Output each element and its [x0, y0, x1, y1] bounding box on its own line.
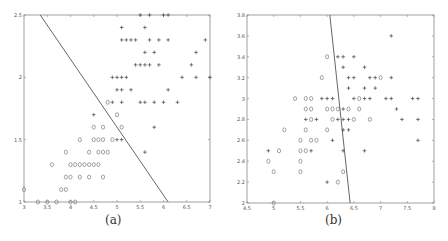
circle-marker [299, 159, 302, 163]
circle-marker [120, 125, 123, 129]
y-tick-label: 2.4 [237, 158, 245, 164]
circle-marker [78, 175, 81, 179]
circle-marker [320, 76, 323, 80]
decision-boundary-line [40, 15, 168, 202]
plus-marker [267, 149, 271, 153]
circle-marker [310, 107, 313, 111]
circle-marker [106, 100, 109, 104]
plus-marker [143, 100, 147, 104]
x-tick-label: 4 [69, 204, 72, 210]
x-tick-label: 6.5 [183, 204, 191, 210]
plus-marker [129, 38, 133, 42]
plus-marker [341, 55, 345, 59]
circle-marker [310, 117, 313, 121]
plus-marker [400, 118, 404, 122]
circle-marker [101, 175, 104, 179]
circle-marker [304, 149, 307, 153]
circle-marker [78, 138, 81, 142]
circle-marker [111, 138, 114, 142]
x-tick-label: 7 [379, 205, 382, 211]
plus-marker [194, 51, 198, 55]
plus-marker [180, 76, 184, 80]
scatter-plot-a: 33.544.555.566.5711.522.5 [0, 0, 224, 241]
x-tick-label: 5.5 [296, 205, 304, 211]
circle-marker [299, 149, 302, 153]
plus-marker [368, 97, 372, 101]
plus-marker [166, 88, 170, 92]
x-tick-label: 6.5 [350, 205, 358, 211]
plus-marker [148, 38, 152, 42]
plus-marker [331, 139, 335, 143]
plus-marker [115, 88, 119, 92]
plus-marker [152, 125, 156, 129]
plus-marker [166, 13, 170, 17]
plus-marker [152, 51, 156, 55]
x-tick-label: 8 [432, 205, 435, 211]
circle-marker [304, 107, 307, 111]
plus-marker [120, 88, 124, 92]
plus-marker [389, 76, 393, 80]
x-tick-label: 5 [272, 205, 275, 211]
circle-marker [326, 107, 329, 111]
circle-marker [97, 138, 100, 142]
x-tick-label: 3.5 [43, 204, 51, 210]
plus-marker [336, 118, 340, 122]
circle-marker [74, 163, 77, 167]
circle-marker [267, 159, 270, 163]
circle-marker [88, 150, 91, 154]
plus-marker [120, 100, 124, 104]
circle-marker [331, 107, 334, 111]
plus-marker [325, 180, 329, 184]
circle-marker [60, 188, 63, 192]
y-tick-label: 2.6 [237, 137, 245, 143]
circle-marker [315, 138, 318, 142]
plus-marker [115, 76, 119, 80]
circle-marker [299, 138, 302, 142]
plus-marker [125, 76, 129, 80]
plus-marker [129, 88, 133, 92]
plus-marker [336, 55, 340, 59]
plus-marker [157, 38, 161, 42]
plus-marker [347, 128, 351, 132]
circle-marker [88, 163, 91, 167]
plus-marker [416, 139, 420, 143]
circle-marker [69, 175, 72, 179]
plus-marker [120, 138, 124, 142]
circle-marker [106, 150, 109, 154]
plus-marker [341, 118, 345, 122]
plus-marker [120, 38, 124, 42]
x-tick-label: 5.5 [136, 204, 144, 210]
circle-marker [97, 163, 100, 167]
caption-a: (a) [105, 213, 122, 227]
circle-marker [336, 180, 339, 184]
circle-marker [64, 188, 67, 192]
circle-marker [299, 170, 302, 174]
circle-marker [310, 97, 313, 101]
circle-marker [88, 175, 91, 179]
y-tick-label: 2.5 [14, 12, 22, 18]
plus-marker [176, 100, 180, 104]
plus-marker [111, 100, 115, 104]
plus-marker [347, 76, 351, 80]
circle-marker [326, 55, 329, 59]
circle-marker [92, 125, 95, 129]
plus-marker [143, 51, 147, 55]
circle-marker [78, 163, 81, 167]
plus-marker [352, 76, 356, 80]
plus-marker [416, 97, 420, 101]
x-tick-label: 5 [115, 204, 118, 210]
axes-frame [24, 15, 210, 202]
chart-panel-a: 33.544.555.566.5711.522.5 (a) [0, 0, 224, 241]
circle-marker [352, 117, 355, 121]
plus-marker [315, 118, 319, 122]
plus-marker [331, 97, 335, 101]
plus-marker [194, 76, 198, 80]
plus-marker [148, 13, 152, 17]
plus-marker [341, 65, 345, 69]
plus-marker [143, 63, 147, 67]
circle-marker [50, 163, 53, 167]
plus-marker [120, 76, 124, 80]
circle-marker [283, 128, 286, 132]
circle-marker [101, 125, 104, 129]
circle-marker [326, 128, 329, 132]
